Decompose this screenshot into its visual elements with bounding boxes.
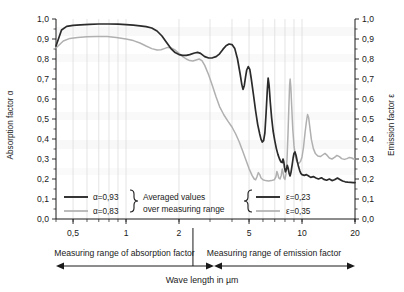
svg-text:0,5: 0,5 — [362, 114, 374, 124]
svg-text:0,9: 0,9 — [37, 34, 49, 44]
legend-label-epsilon-035: ε=0,35 — [286, 207, 311, 216]
svg-text:2: 2 — [177, 228, 182, 238]
svg-text:0,3: 0,3 — [37, 154, 49, 164]
svg-text:0,9: 0,9 — [362, 34, 374, 44]
absorption-emission-spectrum-chart: 0,00,10,20,30,40,50,60,70,80,91,0 0,00,1… — [0, 0, 404, 292]
background-bands — [56, 27, 355, 175]
svg-text:0,7: 0,7 — [37, 74, 49, 84]
svg-text:5: 5 — [247, 228, 252, 238]
annotation-line-1: Averaged values — [143, 192, 205, 202]
series-alpha-093-curve — [56, 24, 355, 183]
svg-text:0,8: 0,8 — [37, 54, 49, 64]
svg-text:10: 10 — [297, 228, 307, 238]
range-label-absorption: Measuring range of absorption factor — [54, 248, 195, 258]
svg-text:20: 20 — [350, 228, 360, 238]
svg-text:0,4: 0,4 — [37, 134, 49, 144]
x-axis: 0,51251020 — [56, 219, 360, 238]
legend-left: α=0,93 α=0,83 Averaged values over measu… — [64, 190, 225, 216]
svg-text:0,6: 0,6 — [37, 94, 49, 104]
svg-text:0,6: 0,6 — [362, 94, 374, 104]
svg-text:0,2: 0,2 — [37, 174, 49, 184]
legend-label-alpha-083: α=0,83 — [93, 207, 119, 216]
legend-label-epsilon-023: ε=0,23 — [286, 193, 311, 202]
range-arrow-emission — [214, 263, 355, 270]
svg-text:0,7: 0,7 — [362, 74, 374, 84]
y-axis-left-title: Absorption factor α — [6, 90, 15, 159]
range-arrow-absorption — [56, 263, 214, 270]
svg-text:0,8: 0,8 — [362, 54, 374, 64]
range-label-emission: Measuring range of emission factor — [207, 248, 341, 258]
svg-text:1,0: 1,0 — [362, 14, 374, 24]
x-axis-title: Wave length in µm — [166, 275, 239, 285]
svg-text:0,3: 0,3 — [362, 154, 374, 164]
legend-right: ε=0,23 ε=0,35 — [244, 190, 311, 216]
brace-left-icon — [130, 190, 138, 212]
range-annotations: Measuring range of absorption factor Mea… — [54, 248, 355, 269]
svg-text:0,5: 0,5 — [67, 228, 79, 238]
annotation-line-2: over measuring range — [143, 204, 225, 214]
svg-text:0,1: 0,1 — [362, 194, 374, 204]
y-axis-right-title: Emission factor ε — [387, 94, 396, 156]
svg-text:0,1: 0,1 — [37, 194, 49, 204]
legend-label-alpha-093: α=0,93 — [93, 193, 119, 202]
chart-container: 0,00,10,20,30,40,50,60,70,80,91,0 0,00,1… — [0, 0, 404, 292]
svg-text:1: 1 — [124, 228, 129, 238]
svg-text:0,2: 0,2 — [362, 174, 374, 184]
y-axis-right: 0,00,10,20,30,40,50,60,70,80,91,0 — [355, 14, 374, 224]
svg-text:0,0: 0,0 — [362, 214, 374, 224]
svg-text:0,4: 0,4 — [362, 134, 374, 144]
y-axis-left: 0,00,10,20,30,40,50,60,70,80,91,0 — [37, 14, 56, 224]
brace-right-icon — [244, 190, 252, 212]
svg-text:0,0: 0,0 — [37, 214, 49, 224]
svg-text:0,5: 0,5 — [37, 114, 49, 124]
svg-text:1,0: 1,0 — [37, 14, 49, 24]
